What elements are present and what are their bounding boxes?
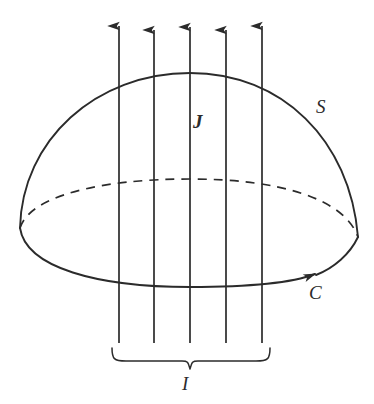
current-label-I: I <box>182 374 188 393</box>
boundary-curve-C-right-tail <box>316 237 358 275</box>
current-underbrace <box>112 348 270 369</box>
surface-dome-arc <box>20 73 358 237</box>
surface-label-S: S <box>316 97 326 116</box>
current-density-label-J: J <box>193 112 203 131</box>
boundary-curve-C-front <box>20 228 315 287</box>
diagram-canvas <box>0 0 374 404</box>
physics-diagram-figure: S C J I <box>0 0 374 404</box>
curve-label-C: C <box>309 283 322 302</box>
equator-back-dashed-arc <box>20 179 358 237</box>
